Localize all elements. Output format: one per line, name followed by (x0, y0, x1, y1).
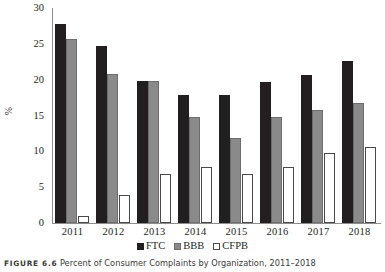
legend-item-bbb[interactable]: BBB (174, 241, 204, 252)
y-tick-15: 15 (0, 110, 44, 121)
figure-caption-text: Percent of Consumer Complaints by Organi… (60, 258, 316, 268)
bar-bbb-2012[interactable] (107, 74, 118, 223)
bar-group-2017 (298, 8, 339, 223)
bar-group-2011 (52, 8, 93, 223)
bar-group-2015 (216, 8, 257, 223)
bar-cfpb-2016[interactable] (283, 167, 294, 223)
x-tick-2018: 2018 (333, 227, 385, 238)
legend-swatch-ftc-icon (137, 243, 144, 250)
bar-bbb-2015[interactable] (230, 138, 241, 223)
bar-ftc-2018[interactable] (342, 61, 353, 223)
y-tick-10: 10 (0, 146, 44, 157)
bar-bbb-2016[interactable] (271, 117, 282, 223)
bar-cfpb-2013[interactable] (160, 174, 171, 223)
bar-ftc-2015[interactable] (219, 95, 230, 223)
bar-group-2016 (257, 8, 298, 223)
bar-ftc-2016[interactable] (260, 82, 271, 223)
y-tick-5: 5 (0, 182, 44, 193)
bar-bbb-2013[interactable] (148, 81, 159, 223)
bar-ftc-2014[interactable] (178, 95, 189, 223)
bar-group-2012 (93, 8, 134, 223)
bar-ftc-2017[interactable] (301, 75, 312, 223)
plot-area (52, 8, 380, 223)
y-axis-tick-labels: 051015202530 (0, 0, 52, 272)
bar-group-2018 (339, 8, 380, 223)
legend-swatch-cfpb-icon (213, 243, 220, 250)
y-tick-20: 20 (0, 74, 44, 85)
bar-bbb-2011[interactable] (66, 39, 77, 223)
y-tick-25: 25 (0, 39, 44, 50)
legend-swatch-bbb-icon (174, 243, 181, 250)
bar-cfpb-2018[interactable] (365, 147, 376, 223)
x-axis-line (52, 223, 381, 224)
bar-cfpb-2012[interactable] (119, 195, 130, 223)
bar-ftc-2012[interactable] (96, 46, 107, 223)
figure-caption: FIGURE 6.6 Percent of Consumer Complaint… (4, 258, 316, 269)
y-tick-0: 0 (0, 218, 44, 229)
bar-cfpb-2011[interactable] (78, 216, 89, 223)
bar-ftc-2011[interactable] (55, 24, 66, 223)
legend-item-cfpb[interactable]: CFPB (213, 241, 248, 252)
legend-label-cfpb: CFPB (222, 241, 248, 252)
bar-cfpb-2017[interactable] (324, 153, 335, 223)
figure-number: FIGURE 6.6 (4, 259, 57, 268)
bar-ftc-2013[interactable] (137, 81, 148, 223)
bar-bbb-2014[interactable] (189, 117, 200, 223)
bar-group-2014 (175, 8, 216, 223)
bar-group-2013 (134, 8, 175, 223)
legend-label-bbb: BBB (183, 241, 204, 252)
bar-bbb-2018[interactable] (353, 103, 364, 223)
bar-bbb-2017[interactable] (312, 110, 323, 223)
legend-label-ftc: FTC (146, 241, 165, 252)
figure-container: % 051015202530 2011201220132014201520162… (0, 0, 385, 272)
bar-cfpb-2014[interactable] (201, 167, 212, 223)
y-tick-30: 30 (0, 3, 44, 14)
chart-legend: FTCBBBCFPB (0, 241, 385, 252)
bar-cfpb-2015[interactable] (242, 174, 253, 223)
legend-item-ftc[interactable]: FTC (137, 241, 165, 252)
